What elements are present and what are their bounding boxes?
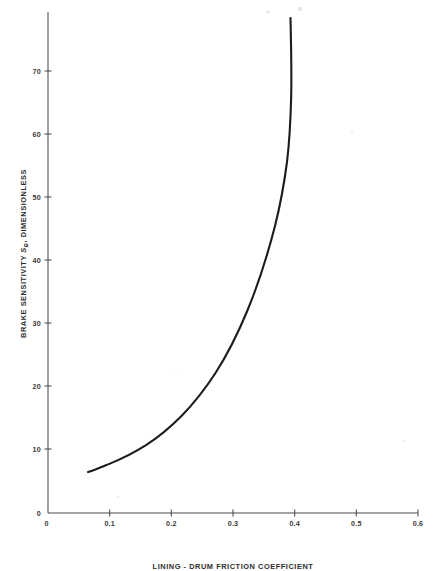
x-tick-label: 0.4	[289, 519, 300, 528]
y-tick-label: 20	[33, 382, 41, 391]
x-tick-label: 0.6	[413, 519, 424, 528]
x-tick-labels: 0 0.1 0.2 0.3 0.4 0.5 0.6	[44, 519, 423, 528]
y-tick-label: 70	[33, 67, 41, 76]
y-tick-label: 60	[33, 130, 41, 139]
y-tick-label: 30	[33, 319, 41, 328]
x-tick-label: 0.2	[166, 519, 177, 528]
y-tick-labels: 0 10 20 30 40 50 60 70	[33, 67, 41, 518]
y-tick-label: 50	[33, 193, 41, 202]
svg-text:BRAKE SENSITIVITY SB, DIMENSIO: BRAKE SENSITIVITY SB, DIMENSIONLESS	[19, 169, 29, 338]
scan-noise	[117, 7, 405, 498]
y-axis-title-group: BRAKE SENSITIVITY SB, DIMENSIONLESS	[19, 169, 29, 338]
y-tick-label: 40	[33, 256, 41, 265]
x-tick-label: 0.5	[351, 519, 362, 528]
x-axis-title: LINING - DRUM FRICTION COEFFICIENT	[153, 562, 314, 571]
y-axis-title-tail: , DIMENSIONLESS	[19, 169, 28, 243]
y-axis-title-main: BRAKE SENSITIVITY	[19, 255, 28, 338]
x-tick-label: 0	[44, 519, 48, 528]
y-tick-label: 0	[37, 509, 41, 518]
y-tick-label: 10	[33, 445, 41, 454]
x-tick-label: 0.3	[228, 519, 239, 528]
chart-figure: 0 10 20 30 40 50 60 70 0 0.1 0.2 0.3 0.4…	[0, 0, 436, 571]
x-tick-label: 0.1	[104, 519, 115, 528]
data-curve-brake-sensitivity	[88, 18, 291, 472]
brake-sensitivity-plot: 0 10 20 30 40 50 60 70 0 0.1 0.2 0.3 0.4…	[0, 0, 436, 571]
